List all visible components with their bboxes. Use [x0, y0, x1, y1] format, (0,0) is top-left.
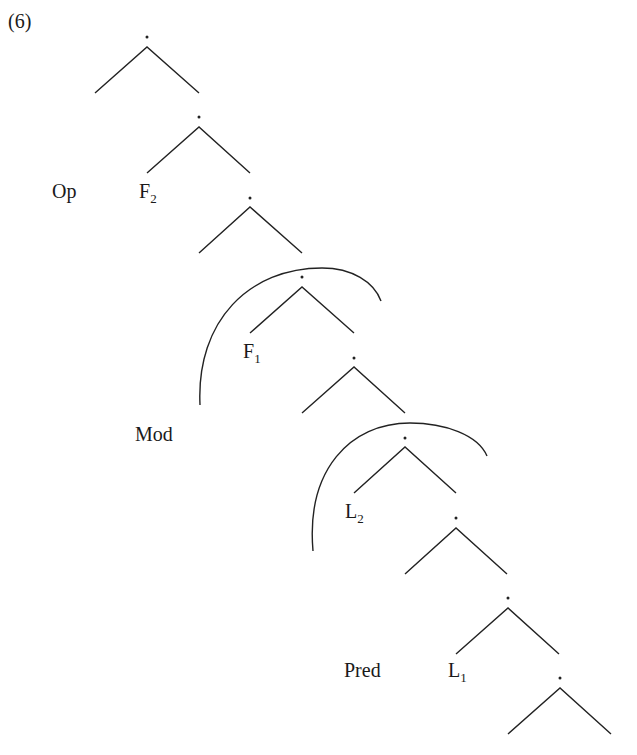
- label-f2: F2: [139, 180, 157, 206]
- tree-node-8: [456, 597, 559, 655]
- tree-node-9: [508, 677, 611, 735]
- syntax-tree-diagram: (6) Op F2: [0, 0, 637, 755]
- label-l1: L1: [448, 659, 467, 685]
- label-f1: F1: [243, 340, 261, 366]
- tree-node-7: [405, 517, 507, 575]
- example-number: (6): [8, 10, 31, 33]
- mod-arc: [200, 268, 381, 405]
- tree-node-3: [199, 197, 302, 254]
- label-op: Op: [52, 180, 76, 203]
- tree-node-6: [354, 437, 456, 494]
- label-l2: L2: [345, 500, 364, 526]
- tree-node-1: [95, 36, 199, 94]
- tree-node-2: [147, 116, 250, 174]
- label-mod: Mod: [135, 423, 173, 445]
- tree-node-5: [302, 357, 405, 414]
- label-pred: Pred: [344, 659, 381, 681]
- tree-node-4: [250, 276, 354, 334]
